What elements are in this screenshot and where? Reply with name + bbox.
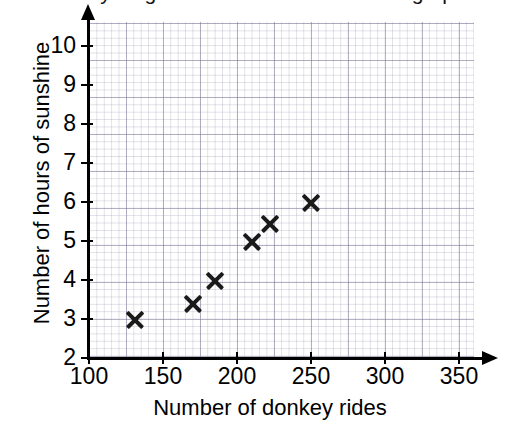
y-tick-8 bbox=[81, 123, 93, 125]
x-tick-label-100: 100 bbox=[49, 364, 129, 388]
data-point-1 bbox=[182, 292, 204, 314]
chart-title-clipped: Key stage 3 mathematics — scatter graph bbox=[0, 0, 512, 9]
x-axis-arrow-icon bbox=[482, 351, 498, 365]
y-axis-arrow-icon bbox=[81, 4, 95, 20]
y-tick-5 bbox=[81, 240, 93, 242]
y-axis-title-wrapper: Number of hours of sunshine bbox=[29, 13, 55, 353]
x-tick-label-350: 350 bbox=[419, 364, 499, 388]
y-tick-7 bbox=[81, 162, 93, 164]
x-axis-line bbox=[87, 357, 484, 360]
data-point-2 bbox=[204, 269, 226, 291]
data-point-5 bbox=[300, 191, 322, 213]
y-tick-2 bbox=[81, 357, 93, 359]
x-tick-label-150: 150 bbox=[123, 364, 203, 388]
y-tick-10 bbox=[81, 45, 93, 47]
y-axis-title: Number of hours of sunshine bbox=[29, 13, 55, 353]
scatter-graph-figure: Key stage 3 mathematics — scatter graph … bbox=[0, 0, 512, 434]
chart-title-text: Key stage 3 mathematics — scatter graph bbox=[60, 0, 480, 5]
y-tick-9 bbox=[81, 84, 93, 86]
x-tick-label-200: 200 bbox=[197, 364, 277, 388]
data-point-4 bbox=[259, 212, 281, 234]
y-tick-4 bbox=[81, 279, 93, 281]
x-tick-label-250: 250 bbox=[271, 364, 351, 388]
y-tick-3 bbox=[81, 318, 93, 320]
data-point-0 bbox=[124, 308, 146, 330]
x-tick-label-300: 300 bbox=[345, 364, 425, 388]
x-axis-title: Number of donkey rides bbox=[60, 396, 480, 420]
y-axis-line bbox=[87, 18, 90, 360]
plot-area-grid bbox=[89, 22, 474, 358]
y-tick-6 bbox=[81, 201, 93, 203]
